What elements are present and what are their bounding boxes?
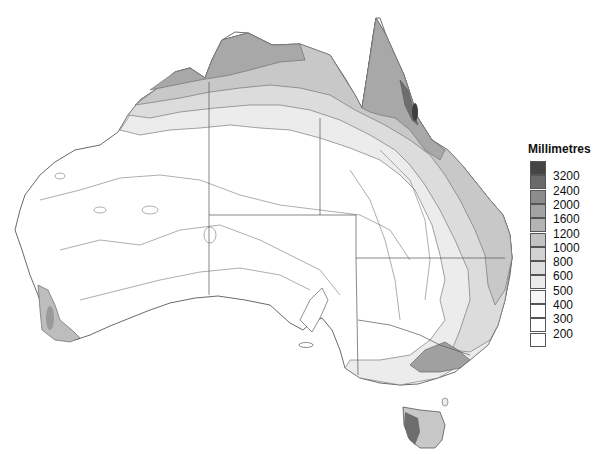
legend: Millimetres 3200240020001600120010008006…	[528, 142, 591, 347]
legend-swatch	[530, 218, 546, 232]
legend-label: 2400	[553, 185, 580, 197]
legend-label: 2000	[553, 199, 580, 211]
legend-swatch	[530, 190, 546, 204]
legend-label: 1200	[553, 228, 580, 240]
legend-swatch	[530, 318, 546, 332]
legend-label: 200	[553, 328, 573, 340]
legend-swatch	[530, 304, 546, 318]
legend-label: 500	[553, 285, 573, 297]
legend-label: 400	[553, 299, 573, 311]
legend-swatch	[530, 233, 546, 247]
legend-label: 800	[553, 256, 573, 268]
flinders-island	[442, 398, 448, 406]
legend-label: 1600	[553, 213, 580, 225]
kangaroo-island	[299, 343, 313, 348]
legend-swatch	[530, 261, 546, 275]
legend-label: 600	[553, 270, 573, 282]
legend-swatch	[530, 333, 546, 347]
rainfall-map	[0, 0, 608, 454]
legend-swatch	[530, 161, 546, 175]
legend-scale: 3200240020001600120010008006005004003002…	[528, 161, 591, 347]
legend-label: 300	[553, 313, 573, 325]
legend-title: Millimetres	[528, 142, 591, 156]
legend-swatch	[530, 175, 546, 189]
zone-3200-plus	[412, 103, 418, 121]
legend-swatch	[530, 247, 546, 261]
zone-sw-wa-core	[46, 306, 54, 330]
legend-label: 3200	[553, 170, 580, 182]
legend-label: 1000	[553, 242, 580, 254]
legend-swatch	[530, 204, 546, 218]
legend-swatch	[530, 290, 546, 304]
legend-swatch	[530, 275, 546, 289]
